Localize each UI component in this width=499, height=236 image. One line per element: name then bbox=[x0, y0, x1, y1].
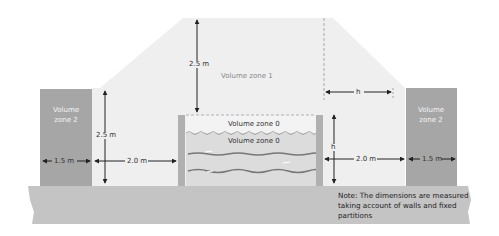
zone0-upper-label: Volume zone 0 bbox=[228, 121, 280, 128]
zone0-lower-label: Volume zone 0 bbox=[228, 138, 280, 145]
zone2-left-label-1: Volume bbox=[46, 107, 86, 114]
zone2-right-label-2: zone 2 bbox=[411, 117, 451, 124]
left-clearance-label: 2.0 m bbox=[127, 158, 147, 165]
right-h-horizontal-label: h bbox=[356, 89, 360, 96]
zone2-right-box bbox=[406, 88, 457, 186]
left-height-label: 2.5 m bbox=[96, 132, 116, 139]
pool-wall-left bbox=[178, 115, 185, 186]
right-h-vertical-label: h bbox=[331, 144, 335, 151]
zone2-left-label-2: zone 2 bbox=[46, 117, 86, 124]
right-clearance-label: 2.0 m bbox=[356, 156, 376, 163]
right-zone2-width-label: 1.5 m bbox=[422, 156, 442, 163]
dimensions-note: Note: The dimensions are measured taking… bbox=[338, 191, 478, 221]
zone1-label: Volume zone 1 bbox=[221, 73, 273, 80]
zone2-left-box bbox=[40, 89, 92, 186]
zone1-height-label: 2.5 m bbox=[189, 61, 209, 68]
pool-wall-right bbox=[316, 115, 323, 186]
left-zone2-width-label: 1.5 m bbox=[54, 158, 74, 165]
zone2-right-label-1: Volume bbox=[411, 107, 451, 114]
